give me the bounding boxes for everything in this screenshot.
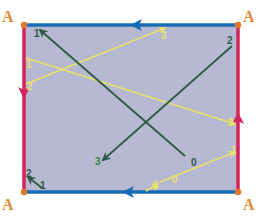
corner-dot-bottom-right [235,189,241,195]
corner-label-bottom-left: A [2,196,14,214]
corner-label-bottom-right: A [243,196,255,214]
yellow-label-3-bottom: 3 [153,181,159,191]
green-label-2-top-right: 2 [227,36,233,46]
green-label-3: 3 [95,157,101,167]
corner-label-top-right: A [243,8,255,26]
corner-label-top-left: A [2,8,14,26]
green-label-1-top: 1 [34,29,40,39]
yellow-label-0-bottom: 0 [172,175,178,185]
yellow-label-1-left: 1 [26,60,32,70]
yellow-label-2-right: 2 [228,118,234,128]
corner-dot-bottom-left [21,189,27,195]
corner-dot-top-left [21,22,27,28]
corner-dot-top-right [235,22,241,28]
green-label-2-bottom-left: 2 [26,169,32,179]
yellow-label-3-top: 3 [161,31,167,41]
yellow-label-2-left: 2 [27,82,33,92]
torus-diagram: AAAA1230213212103 [0,0,266,219]
green-label-1-bottom-left: 1 [40,181,46,191]
yellow-label-1-right: 1 [231,146,237,156]
green-label-0: 0 [191,158,197,168]
